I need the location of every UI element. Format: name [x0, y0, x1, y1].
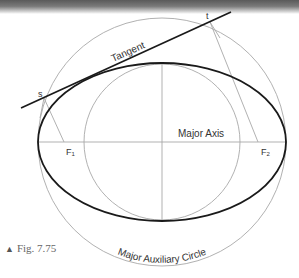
point-s-label: s — [38, 89, 43, 99]
tangent-line — [21, 12, 231, 108]
focal-line-s-f1 — [44, 98, 64, 142]
focus-1-label: F1 — [66, 147, 76, 157]
major-axis-label: Major Axis — [178, 128, 224, 139]
figure-caption: ▲Fig. 7.75 — [5, 242, 56, 254]
tangent-label: Tangent — [109, 39, 146, 64]
point-t-label: t — [206, 11, 209, 21]
focus-2-label: F2 — [261, 147, 271, 157]
ellipse-tangent-diagram: Tangent Major Axis s t F1 F2 Major Auxil… — [0, 0, 299, 278]
triangle-marker-icon: ▲ — [5, 244, 14, 254]
focal-line-t-f2 — [210, 22, 258, 142]
figure-caption-text: Fig. 7.75 — [17, 242, 56, 254]
focal-line-s-down — [40, 98, 44, 118]
